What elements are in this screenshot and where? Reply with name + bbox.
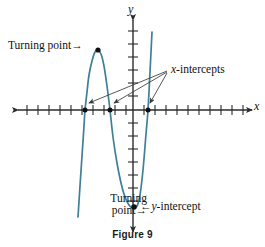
marked-points [83, 47, 151, 209]
turning-point-bottom-label: Turning point→ [84, 193, 147, 216]
figure-caption: Figure 9 [0, 229, 265, 240]
x-intercept-point-2 [108, 108, 113, 113]
turning-point-top-text: Turning point [8, 39, 71, 51]
turning-point-max-marker [95, 47, 100, 52]
turning-point-top-arrow-icon: → [71, 39, 83, 51]
x-intercept-point-1 [83, 108, 88, 113]
polynomial-curve [78, 32, 152, 217]
x-axis [18, 105, 252, 115]
turning-point-bottom-line2: point [112, 204, 136, 216]
x-intercepts-label: x-intercepts [171, 64, 225, 76]
y-axis-label: y [128, 2, 133, 17]
y-intercept-label: ←y-intercept [140, 201, 201, 213]
y-intercept-text: -intercept [157, 200, 201, 212]
figure-container: y x Turning point→ x-intercepts Turning … [0, 0, 265, 247]
x-intercepts-text: -intercepts [176, 63, 225, 75]
turning-point-top-label: Turning point→ [8, 40, 83, 52]
x-intercept-point-3 [146, 108, 151, 113]
annotation-arrows [89, 71, 167, 103]
x-axis-label: x [254, 99, 259, 114]
x-intercept-arrow-3 [150, 73, 167, 103]
y-intercept-arrow-icon: ← [140, 200, 152, 212]
x-intercept-arrow-1 [89, 71, 167, 103]
